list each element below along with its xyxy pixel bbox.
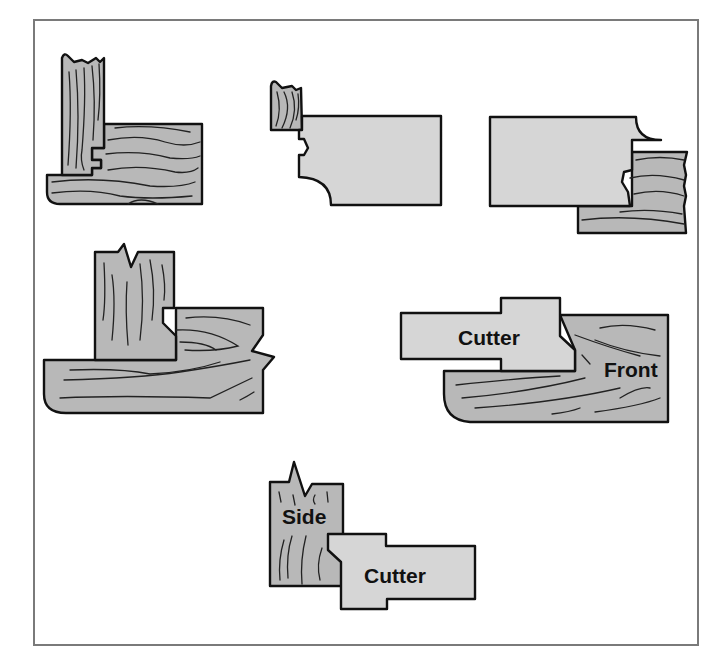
panel-joined-rail-stile <box>47 54 202 204</box>
panel-cutter-with-side-stock <box>271 82 441 206</box>
cutter-profile <box>299 116 441 205</box>
panel-cutter-with-front-stock <box>490 117 687 233</box>
joinery-diagram: Cutter Front Side Cutter <box>0 0 708 663</box>
panel-cutter-front: Cutter Front <box>401 298 668 422</box>
cutter-label: Cutter <box>458 326 520 349</box>
panel-side-cutter: Side Cutter <box>270 462 475 609</box>
stile-board <box>95 244 176 360</box>
front-label: Front <box>604 358 658 381</box>
side-stock <box>271 82 302 131</box>
cutter-label: Cutter <box>364 564 426 587</box>
panel-stile-on-rail <box>44 244 274 413</box>
side-label: Side <box>282 505 326 528</box>
